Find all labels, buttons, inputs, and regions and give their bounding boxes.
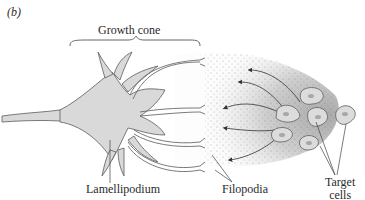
panel-label: (b) xyxy=(7,6,21,19)
target-cell-distant xyxy=(336,106,356,125)
growth-cone-bracket xyxy=(70,36,200,46)
target-cells-label-line1: Target xyxy=(325,176,355,189)
target-cells-label: Target cells xyxy=(325,176,355,200)
growth-cone xyxy=(2,52,165,176)
target-cells-label-line2: cells xyxy=(325,189,355,200)
target-cell xyxy=(299,136,318,151)
target-cell xyxy=(271,128,292,143)
lamellipodium-label: Lamellipodium xyxy=(86,183,160,196)
target-cell xyxy=(300,88,323,105)
filopodia-label: Filopodia xyxy=(222,183,268,196)
diagram-graphic xyxy=(0,0,365,200)
growth-cone-diagram: (b) Growth cone Lamellipodium Filopodia … xyxy=(0,0,365,200)
growth-cone-label: Growth cone xyxy=(98,24,160,37)
